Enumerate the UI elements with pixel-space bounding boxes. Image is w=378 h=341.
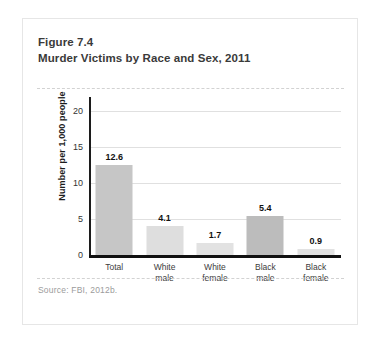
bar-group: 1.7Whitefemale [190, 97, 240, 255]
bar-group: 5.4Blackmale [240, 97, 290, 255]
bar [96, 165, 133, 255]
bar-group: 4.1Whitemale [139, 97, 189, 255]
x-axis-category-label: Whitemale [154, 262, 176, 283]
divider-bottom [37, 278, 344, 279]
bar-value-label: 4.1 [158, 213, 171, 223]
y-axis-tick-label: 15 [73, 142, 83, 152]
y-axis-tick-label: 10 [73, 178, 83, 188]
x-axis-category-label: Total [105, 262, 123, 273]
bar [196, 243, 233, 255]
figure-title: Murder Victims by Race and Sex, 2011 [38, 51, 338, 67]
figure-number: Figure 7.4 [38, 35, 338, 51]
bar-value-label: 0.9 [310, 236, 323, 246]
bar-group: 12.6Total [89, 97, 139, 255]
figure-title-block: Figure 7.4 Murder Victims by Race and Se… [38, 35, 338, 66]
chart-area: Number per 1,000 people 05101520 12.6Tot… [37, 97, 345, 275]
bar-value-label: 1.7 [209, 230, 222, 240]
y-axis-tick-label: 0 [78, 250, 83, 260]
y-axis-tick-label: 20 [73, 106, 83, 116]
x-axis-category-label: Whitefemale [202, 262, 228, 283]
figure-card: Figure 7.4 Murder Victims by Race and Se… [22, 18, 358, 325]
bar [297, 249, 334, 255]
y-axis-tick-label: 5 [78, 214, 83, 224]
plot-region: 05101520 12.6Total4.1Whitemale1.7Whitefe… [89, 97, 341, 257]
x-axis-category-label: Blackmale [255, 262, 276, 283]
x-axis-line [89, 255, 341, 258]
divider-top [37, 88, 344, 89]
x-axis-category-label: Blackfemale [303, 262, 329, 283]
bar-value-label: 5.4 [259, 203, 272, 213]
bar-value-label: 12.6 [105, 152, 123, 162]
bar [247, 216, 284, 255]
y-axis-title: Number per 1,000 people [57, 86, 67, 206]
bar-group: 0.9Blackfemale [291, 97, 341, 255]
bar [146, 226, 183, 255]
source-note: Source: FBI, 2012b. [38, 285, 117, 295]
